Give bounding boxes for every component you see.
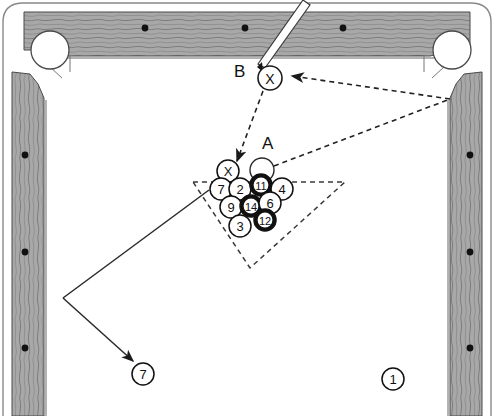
loose-ball-1[interactable]: 1 [382, 368, 404, 390]
pool-table-diagram: X X721149146123 71 B A [0, 0, 494, 416]
ball-number: 12 [259, 215, 271, 227]
table-svg: X X721149146123 71 [0, 0, 494, 416]
ball-number: 2 [236, 182, 243, 197]
ball-number: 9 [227, 200, 234, 215]
cue-ball-b[interactable]: X [258, 66, 282, 90]
label-point-a: A [262, 134, 273, 154]
ball-number: X [224, 164, 233, 179]
ball-number: 6 [266, 196, 273, 211]
top-right-pocket [433, 31, 471, 69]
label-point-b: B [234, 62, 245, 82]
ball-number: 7 [217, 182, 224, 197]
top-rail [24, 12, 470, 56]
cue-ball-b-mark: X [265, 71, 275, 87]
ball-number: 4 [278, 182, 285, 197]
rack-ball-12[interactable]: 12 [254, 209, 276, 231]
ball-number: 11 [255, 180, 266, 192]
rack-ball-3[interactable]: 3 [229, 215, 251, 237]
ball-number: 14 [245, 201, 257, 213]
left-rail [12, 72, 44, 416]
top-left-pocket [31, 31, 69, 69]
ball-number: 1 [389, 372, 396, 387]
right-rail [450, 72, 482, 416]
loose-ball-7[interactable]: 7 [132, 363, 154, 385]
ball-number: 3 [236, 219, 243, 234]
ball-number: 7 [139, 367, 146, 382]
